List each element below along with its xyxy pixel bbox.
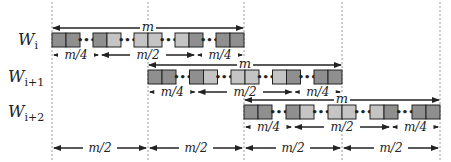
signal-block — [314, 70, 328, 84]
segment-label: m/4 — [208, 48, 231, 62]
half-window-label: m/2 — [281, 141, 304, 155]
overlap-diagram: Wim••••••••••••m/4m/2m/4Wi+1m•••••••••••… — [0, 0, 451, 162]
window-1: Wi+1m••••••••••••m/4m/2m/4 — [8, 56, 342, 99]
window-label: Wi+2 — [8, 102, 44, 124]
window-length-label: m — [142, 19, 154, 34]
signal-block — [134, 33, 148, 47]
windows: Wim••••••••••••m/4m/2m/4Wi+1m•••••••••••… — [8, 19, 440, 134]
segment-label: m/2 — [233, 85, 256, 99]
segment-label: m/4 — [404, 120, 427, 134]
signal-block — [370, 105, 384, 119]
segment-label: m/4 — [64, 48, 87, 62]
segment-label: m/2 — [330, 120, 353, 134]
half-window-label: m/2 — [184, 141, 207, 155]
signal-block — [190, 70, 204, 84]
signal-block — [328, 70, 342, 84]
window-label: Wi — [18, 30, 38, 52]
signal-block — [244, 105, 258, 119]
half-window-label: m/2 — [88, 141, 111, 155]
signal-block — [52, 33, 66, 47]
segment-label: m/4 — [306, 85, 329, 99]
segment-label: m/4 — [161, 85, 184, 99]
window-length-label: m — [239, 56, 251, 71]
window-length-label: m — [336, 91, 348, 106]
signal-block — [286, 105, 300, 119]
half-window-label: m/2 — [379, 141, 402, 155]
window-2: Wi+2m••••••••••••m/4m/2m/4 — [8, 91, 440, 134]
segment-label: m/2 — [136, 48, 159, 62]
signal-block — [231, 70, 245, 84]
signal-block — [230, 33, 244, 47]
signal-block — [93, 33, 107, 47]
segment-label: m/4 — [257, 120, 280, 134]
window-label: Wi+1 — [8, 67, 44, 89]
signal-block — [412, 105, 426, 119]
bottom-axis: m/2m/2m/2m/2 — [54, 141, 438, 155]
signal-block — [148, 70, 162, 84]
signal-block — [175, 33, 189, 47]
signal-block — [273, 70, 287, 84]
signal-block — [328, 105, 342, 119]
signal-block — [426, 105, 440, 119]
signal-block — [216, 33, 230, 47]
